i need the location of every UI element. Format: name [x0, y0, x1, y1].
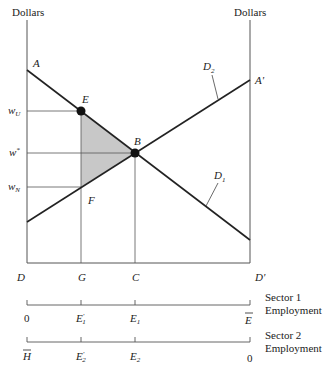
sector2-title-line1: Sector 2: [265, 329, 301, 341]
label-a: A: [32, 57, 40, 69]
label-wn: wN: [8, 180, 20, 194]
sector2-scale: H E'2 E2 0 Sector 2 Employment: [22, 329, 322, 364]
label-f: F: [87, 194, 95, 206]
label-d: D: [16, 271, 25, 283]
d2-leader: [212, 75, 218, 99]
label-g: G: [78, 271, 86, 283]
left-axis-label: Dollars: [12, 6, 44, 18]
sector1-scale: 0 E'1 E1 E Sector 1 Employment: [24, 291, 322, 326]
label-c: C: [132, 271, 140, 283]
label-d1: D1: [213, 169, 225, 184]
label-a-prime: A': [254, 74, 265, 86]
sector2-tick-0: 0: [247, 352, 253, 364]
sector2-tick-e2: E2: [129, 350, 141, 364]
label-d-prime: D': [254, 271, 266, 283]
sector1-title-line1: Sector 1: [265, 291, 301, 303]
two-sector-diagram: Dollars Dollars A A' E B F D2 D1 wU w* w…: [0, 0, 326, 376]
sector1-tick-ebar: E: [244, 314, 252, 326]
sector1-title-line2: Employment: [265, 304, 322, 316]
sector1-tick-e1-prime: E'1: [75, 312, 86, 326]
point-e: [77, 107, 86, 116]
label-b: B: [134, 135, 141, 147]
point-b: [131, 149, 140, 158]
sector1-tick-e1: E1: [129, 312, 140, 326]
sector1-tick-0: 0: [24, 312, 30, 324]
sector2-tick-hbar: H: [22, 350, 32, 362]
label-e: E: [81, 93, 89, 105]
sector2-title-line2: Employment: [265, 342, 322, 354]
d1-leader: [206, 183, 218, 206]
sector2-tick-e2-prime: E'2: [75, 350, 86, 364]
label-wstar: w*: [9, 146, 20, 158]
label-wu: wU: [8, 104, 21, 118]
label-d2: D2: [202, 60, 215, 75]
deadweight-triangle: [81, 111, 135, 187]
right-axis-label: Dollars: [234, 6, 266, 18]
